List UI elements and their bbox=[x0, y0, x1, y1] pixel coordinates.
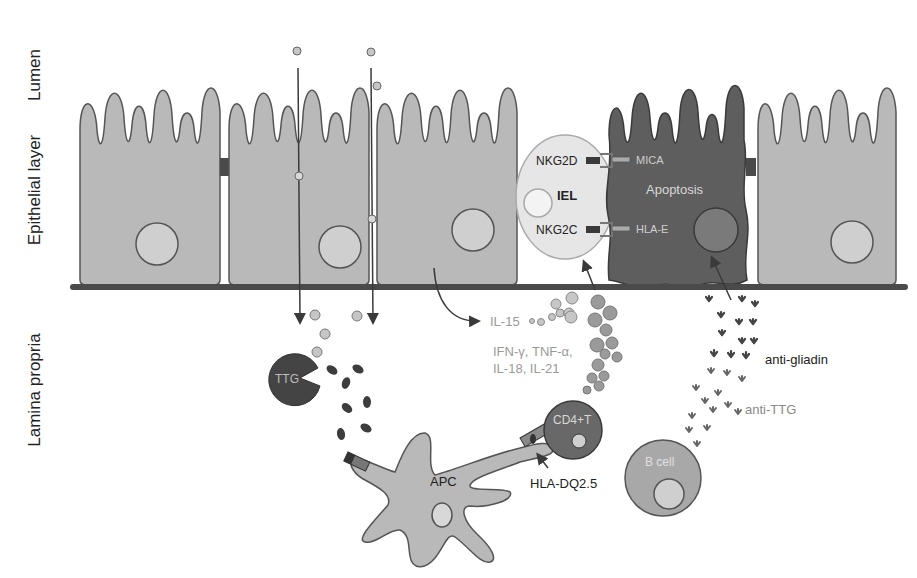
region-label-epithelial: Epithelial layer bbox=[25, 134, 44, 245]
tight-junction-1 bbox=[220, 158, 229, 176]
b-cell: B cell bbox=[625, 440, 701, 516]
region-label-lumen: Lumen bbox=[25, 49, 44, 101]
nkg2d-label: NKG2D bbox=[536, 154, 578, 168]
epithelial-cell-3 bbox=[377, 88, 517, 285]
cd4-t-cell: CD4+T bbox=[544, 401, 602, 459]
apc-label: APC bbox=[430, 474, 457, 489]
region-label-lamina-propria: Lamina propria bbox=[25, 333, 44, 447]
il15-particles bbox=[530, 292, 579, 326]
anti-ttg-antibodies bbox=[686, 368, 745, 446]
b-cell-label: B cell bbox=[645, 455, 674, 469]
mica-label: MICA bbox=[636, 154, 664, 166]
basement-membrane bbox=[70, 284, 908, 290]
cd4-label: CD4+T bbox=[553, 413, 592, 427]
deamidated-peptides bbox=[325, 363, 373, 441]
nkg2c-label: NKG2C bbox=[536, 223, 578, 237]
tight-junction-2 bbox=[746, 158, 756, 176]
epithelial-cell-5 bbox=[758, 88, 896, 285]
epithelial-cell-1 bbox=[80, 88, 220, 285]
cytokines-label-line2: IL-18, IL-21 bbox=[493, 361, 560, 376]
anti-ttg-label: anti-TTG bbox=[745, 402, 796, 417]
ttg-enzyme: TTG bbox=[269, 354, 320, 406]
apoptosis-label: Apoptosis bbox=[646, 182, 704, 197]
gliadin-peptides bbox=[310, 310, 362, 357]
hla-dq-label: HLA-DQ2.5 bbox=[530, 476, 597, 491]
celiac-pathogenesis-diagram: Lumen Epithelial layer Lamina propria IE… bbox=[0, 0, 917, 578]
cytokines-label-line1: IFN-γ, TNF-α, bbox=[493, 344, 573, 359]
il15-label: IL-15 bbox=[490, 314, 520, 329]
iel-label: IEL bbox=[557, 188, 577, 203]
ttg-label: TTG bbox=[275, 372, 299, 386]
apc-cell: APC bbox=[351, 433, 553, 567]
inflammatory-cytokine-particles bbox=[583, 295, 622, 394]
hla-e-label: HLA-E bbox=[636, 223, 668, 235]
anti-gliadin-antibodies bbox=[706, 296, 758, 358]
anti-gliadin-label: anti-gliadin bbox=[765, 352, 828, 367]
apoptotic-epithelial-cell: Apoptosis MICA HLA-E bbox=[607, 86, 748, 288]
iel-cell: IEL NKG2D NKG2C bbox=[516, 135, 614, 259]
